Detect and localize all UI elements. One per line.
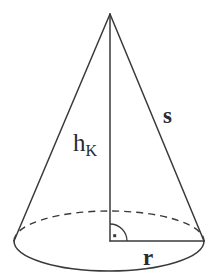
base-ellipse-back-arc (14, 211, 204, 241)
cone-left-slant-line (14, 14, 110, 241)
base-ellipse-front-arc (14, 241, 204, 271)
cone-drawing-canvas (0, 0, 208, 280)
height-label: hK (73, 130, 97, 159)
right-angle-arc-icon (110, 224, 127, 241)
height-label-subscript: K (86, 142, 98, 159)
cone-right-slant-line (110, 14, 204, 241)
radius-label: r (143, 246, 153, 269)
cone-diagram: hK s r (0, 0, 208, 280)
height-label-base: h (73, 129, 86, 156)
slant-height-label: s (163, 104, 172, 127)
right-angle-dot-icon (113, 234, 116, 237)
